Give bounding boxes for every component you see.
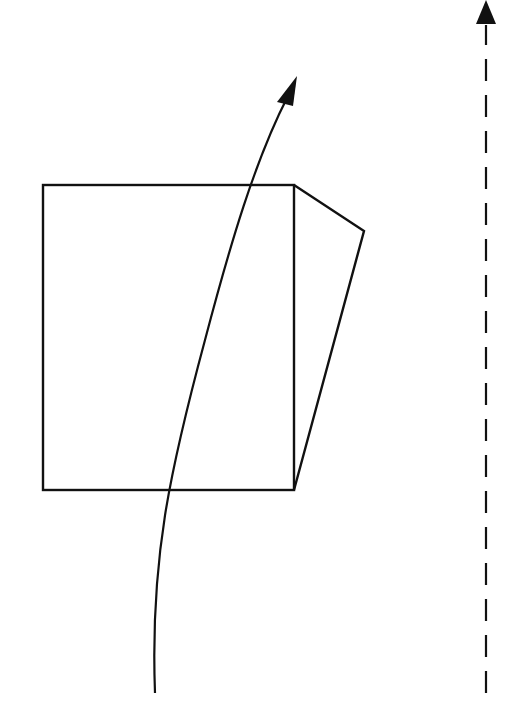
square-front-face <box>43 185 294 490</box>
curved-arrow-head-icon <box>277 76 297 106</box>
diagram-canvas <box>0 0 522 728</box>
square-side-face <box>294 185 364 490</box>
dashed-arrow-head-icon <box>476 0 496 24</box>
